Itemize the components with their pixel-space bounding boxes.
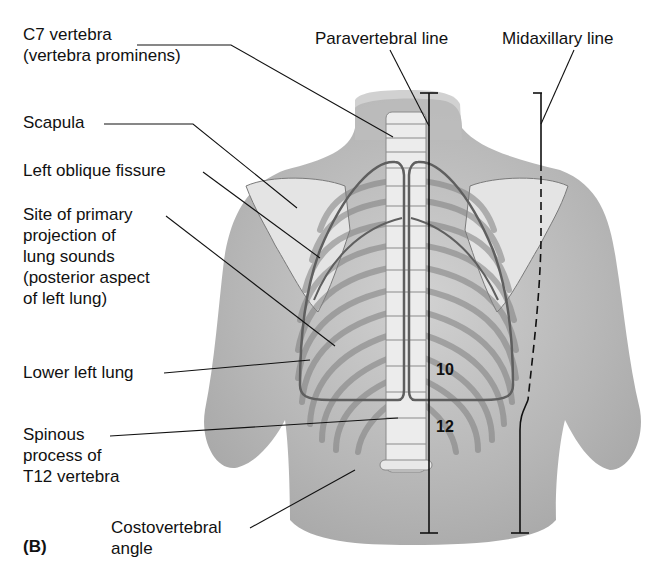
rib-number-12: 12: [436, 418, 454, 436]
label-midaxillary-line: Midaxillary line: [502, 28, 613, 49]
label-paravertebral-line: Paravertebral line: [315, 28, 448, 49]
vertebral-column: [380, 112, 432, 472]
label-lung-sounds-site: Site of primary projection of lung sound…: [23, 204, 150, 309]
label-costovertebral-angle: Costovertebral angle: [111, 517, 222, 559]
label-scapula: Scapula: [23, 112, 84, 133]
label-spinous-process-t12: Spinous process of T12 vertebra: [23, 424, 119, 487]
posterior-thorax-diagram: C7 vertebra (vertebra prominens) Scapula…: [0, 0, 650, 584]
panel-label: (B): [23, 537, 47, 557]
rib-number-10: 10: [436, 361, 454, 379]
label-left-oblique-fissure: Left oblique fissure: [23, 160, 166, 181]
leader-midaxillary: [541, 50, 574, 124]
label-c7-vertebra: C7 vertebra (vertebra prominens): [23, 24, 181, 66]
label-lower-left-lung: Lower left lung: [23, 362, 134, 383]
